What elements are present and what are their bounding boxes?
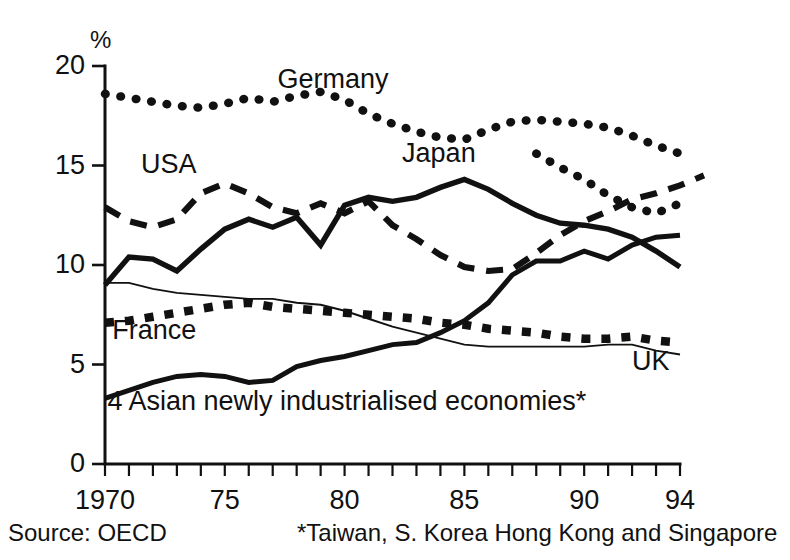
series-label-4: 4 Asian newly industrialised economies*: [107, 386, 586, 416]
y-axis-unit-label: %: [90, 26, 111, 53]
x-tick-label: 75: [210, 485, 240, 515]
line-chart: % 05101520 19707580859094 GermanyUSAJapa…: [0, 0, 790, 560]
series-line-germany-tail: [536, 154, 680, 214]
series-label-germany: Germany: [278, 64, 390, 94]
x-tick-label: 1970: [75, 485, 135, 515]
chart-figure: % 05101520 19707580859094 GermanyUSAJapa…: [0, 0, 790, 560]
y-tick-label: 15: [55, 150, 85, 180]
y-tick-label: 0: [70, 448, 85, 478]
series-line-japan: [105, 179, 680, 284]
y-tick-label: 5: [70, 349, 85, 379]
x-tick-label: 90: [569, 485, 599, 515]
y-axis-ticks: [92, 66, 105, 464]
series-line-germany: [105, 92, 680, 154]
x-tick-label: 80: [330, 485, 360, 515]
series-annotations: GermanyUSAJapanFranceUK4 Asian newly ind…: [107, 64, 669, 416]
footnote-label: *Taiwan, S. Korea Hong Kong and Singapor…: [297, 519, 777, 546]
source-label: Source: OECD: [8, 519, 167, 546]
y-tick-label: 10: [55, 249, 85, 279]
series-label-usa: USA: [141, 149, 197, 179]
x-tick-label: 85: [449, 485, 479, 515]
series-label-japan: Japan: [402, 138, 476, 168]
series-label-france: France: [112, 315, 196, 345]
y-axis-tick-labels: 05101520: [55, 50, 85, 478]
y-tick-label: 20: [55, 50, 85, 80]
series-label-uk: UK: [632, 346, 670, 376]
x-axis-ticks: [105, 464, 680, 476]
x-axis-tick-labels: 19707580859094: [75, 485, 695, 515]
x-tick-label: 94: [665, 485, 695, 515]
